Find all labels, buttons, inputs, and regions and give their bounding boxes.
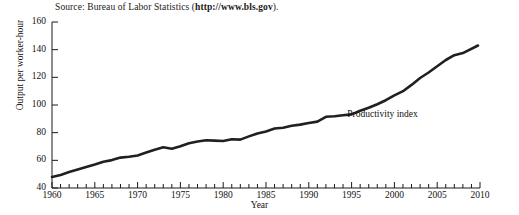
y-tick-label: 120 (18, 71, 46, 81)
x-tick-label: 2005 (417, 190, 457, 200)
y-tick-label: 140 (18, 44, 46, 54)
x-tick-label: 1975 (160, 190, 200, 200)
y-tick-label: 60 (18, 154, 46, 164)
x-tick-label: 1980 (203, 190, 243, 200)
plot-canvas (0, 0, 519, 215)
y-tick-label: 80 (18, 127, 46, 137)
productivity-line-chart: Output per worker-hour Year 406080100120… (0, 0, 519, 215)
axis-lines (52, 22, 480, 188)
x-tick-label: 2000 (374, 190, 414, 200)
x-tick-label: 1960 (32, 190, 72, 200)
x-tick-label: 1970 (118, 190, 158, 200)
y-tick-label: 160 (18, 16, 46, 26)
x-tick-label: 1985 (246, 190, 286, 200)
chart-page: Source: Bureau of Labor Statistics (http… (0, 0, 519, 215)
x-tick-label: 2010 (460, 190, 500, 200)
y-tick-label: 100 (18, 99, 46, 109)
y-axis-ticks (52, 22, 58, 188)
x-tick-label: 1990 (289, 190, 329, 200)
x-axis-title: Year (0, 200, 519, 210)
series-annotation-productivity-index: Productivity index (347, 109, 417, 119)
x-tick-label: 1965 (75, 190, 115, 200)
x-tick-label: 1995 (332, 190, 372, 200)
x-axis-major-ticks (52, 182, 480, 188)
